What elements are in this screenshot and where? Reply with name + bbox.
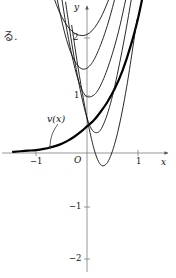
curve-approximation-4 xyxy=(66,0,140,133)
axes-group xyxy=(2,6,168,272)
x-axis-label: x xyxy=(161,157,166,167)
figure-canvas: る. x y O xyxy=(0,0,176,278)
y-tick-label-neg2: −2 xyxy=(69,253,82,263)
curve-family-plot xyxy=(0,0,176,278)
origin-label: O xyxy=(74,155,81,165)
curve-approximation-5 xyxy=(72,20,137,166)
x-tick-label-1: 1 xyxy=(136,156,141,166)
curve-paths xyxy=(13,0,146,166)
curve-approximation-1 xyxy=(39,0,121,36)
y-tick-label-2: 2 xyxy=(73,32,78,42)
curve-annotation-label: v(x) xyxy=(47,113,65,124)
y-tick-label-1: 1 xyxy=(74,90,79,100)
y-axis-label: y xyxy=(74,2,79,12)
x-tick-label-neg1: −1 xyxy=(30,156,43,166)
curve-approximation-2 xyxy=(51,0,128,69)
y-tick-label-neg1: −1 xyxy=(69,201,82,211)
